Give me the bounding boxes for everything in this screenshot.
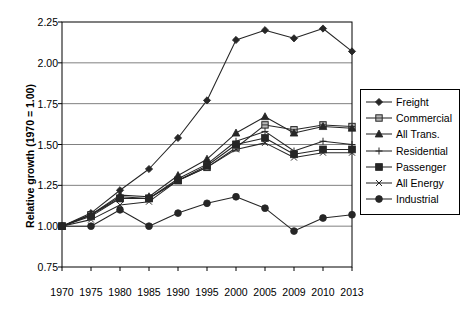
- legend-symbol: [365, 127, 393, 141]
- data-point-marker: [262, 122, 268, 128]
- data-point-marker: [233, 193, 240, 200]
- x-axis-tick-label: 1985: [137, 286, 160, 298]
- data-point-marker: [204, 200, 211, 207]
- legend-item-freight[interactable]: Freight: [365, 94, 454, 110]
- legend-item-label: Commercial: [396, 112, 452, 124]
- y-axis-tick-label: 1.00: [18, 220, 58, 232]
- legend-symbol: [365, 160, 393, 174]
- x-axis-tick-label: 1970: [50, 286, 73, 298]
- y-axis-tick-label: 1.25: [18, 179, 58, 191]
- data-point-marker: [349, 146, 356, 153]
- legend-item-label: All Trans.: [396, 128, 440, 140]
- legend-symbol: [365, 176, 393, 190]
- y-axis-tick-label: 2.00: [18, 57, 58, 69]
- x-axis-tick-label: 2010: [311, 286, 334, 298]
- legend-item-label: Industrial: [396, 193, 439, 205]
- data-point-marker: [146, 223, 153, 230]
- data-point-marker: [320, 146, 327, 153]
- legend-item-label: All Energy: [396, 177, 444, 189]
- data-point-marker: [59, 223, 66, 230]
- data-point-marker: [375, 98, 382, 105]
- x-axis-tick-label: 2009: [282, 286, 305, 298]
- data-point-marker: [146, 195, 153, 202]
- x-axis-tick-label: 1980: [108, 286, 131, 298]
- legend-item-residential[interactable]: Residential: [365, 143, 454, 159]
- data-point-marker: [175, 210, 182, 217]
- legend-symbol: [365, 111, 393, 125]
- legend-item-passenger[interactable]: Passenger: [365, 159, 454, 175]
- data-point-marker: [376, 147, 383, 154]
- y-axis-tick-label: 1.75: [18, 98, 58, 110]
- x-axis-tick-label: 1990: [166, 286, 189, 298]
- x-axis-tick-label: 1995: [195, 286, 218, 298]
- legend-item-all-trans[interactable]: All Trans.: [365, 126, 454, 142]
- y-axis-tick-label: 1.50: [18, 139, 58, 151]
- data-point-marker: [376, 163, 383, 170]
- relative-growth-line-chart: Relative growth (1970 = 1.00) 0.751.001.…: [0, 0, 465, 321]
- legend-item-all-energy[interactable]: All Energy: [365, 175, 454, 191]
- data-point-marker: [320, 215, 327, 222]
- data-point-marker: [117, 195, 124, 202]
- x-axis-tick-label: 1975: [79, 286, 102, 298]
- y-axis-tick-labels: 0.751.001.251.501.752.002.25: [14, 0, 58, 321]
- x-axis-tick-label: 2013: [340, 286, 363, 298]
- data-point-marker: [376, 196, 383, 203]
- legend-item-label: Passenger: [396, 161, 446, 173]
- data-point-marker: [88, 223, 95, 230]
- chart-legend: FreightCommercialAll Trans.ResidentialPa…: [360, 89, 460, 215]
- y-axis-tick-label: 0.75: [18, 261, 58, 273]
- y-axis-tick-label: 2.25: [18, 16, 58, 28]
- legend-item-industrial[interactable]: Industrial: [365, 191, 454, 207]
- data-point-marker: [291, 228, 298, 235]
- x-axis-tick-labels: 1970197519801985199019952000200520092010…: [0, 286, 465, 306]
- data-point-marker: [376, 115, 382, 121]
- legend-item-label: Freight: [396, 96, 429, 108]
- x-axis-tick-label: 2005: [253, 286, 276, 298]
- legend-symbol: [365, 95, 393, 109]
- legend-item-commercial[interactable]: Commercial: [365, 110, 454, 126]
- data-point-marker: [349, 211, 356, 218]
- legend-symbol: [365, 192, 393, 206]
- data-point-marker: [117, 206, 124, 213]
- legend-item-label: Residential: [396, 145, 448, 157]
- data-point-marker: [262, 205, 269, 212]
- x-axis-tick-label: 2000: [224, 286, 247, 298]
- legend-symbol: [365, 144, 393, 158]
